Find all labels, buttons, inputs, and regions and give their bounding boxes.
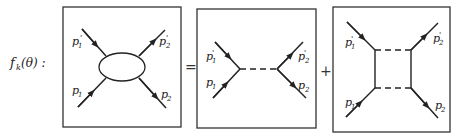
arrow-p2prime [411,36,425,50]
label-p2-sub: 2 [304,86,310,94]
label-p2prime: p [159,35,166,48]
label-p2-sub: 2 [440,106,446,114]
arrow-p2 [411,88,427,106]
arrow-p2 [139,78,156,97]
label-p1prime-mark: ' [212,48,214,57]
label-p1-sub: 1 [78,91,82,99]
label-p1prime-sub: 1 [212,57,216,65]
label-p2-sub: 2 [166,95,172,103]
diagram-box: p 1 ' p 2 ' p 1 p 2 [333,7,450,132]
diagram-full-amplitude: p 1 ' p 2 ' p 1 p 2 [63,7,181,127]
equals-sign: = [185,59,197,75]
interaction-blob [99,53,145,81]
plus-sign: + [320,63,332,79]
label-p2prime-mark: ' [166,33,168,42]
label-p1-sub: 1 [212,83,216,91]
label-p1prime-mark: ' [80,33,82,42]
arrow-p2prime [139,41,154,56]
amplitude-label: f k (θ) : [9,55,45,72]
frame [197,9,316,128]
label-p2prime-mark: ' [304,48,306,57]
label-p2prime-sub: 2 [304,57,310,65]
diagram-single-exchange: p 1 ' p 1 p 2 ' p 2 [197,9,316,128]
label-p2: p [298,79,305,92]
label-p1-sub: 1 [351,103,355,111]
label-p1prime-mark: ' [351,34,353,43]
label-p2prime-sub: 2 [438,39,444,47]
label-p2prime-mark: ' [439,30,441,39]
arrow-p1prime [82,29,96,45]
arrow-p2 [277,69,294,86]
arrow-p2prime [277,55,291,69]
label-p1prime-sub: 1 [78,42,82,50]
label-p2prime-sub: 2 [165,42,171,50]
arrow-p1prime [215,42,229,57]
feynman-diagram-equation: f k (θ) : p 1 ' p 2 ' p 1 p 2 = [0,0,462,139]
lhs-arg: (θ) : [21,56,45,70]
frame [63,7,181,127]
label-p1prime-sub: 1 [351,43,355,51]
